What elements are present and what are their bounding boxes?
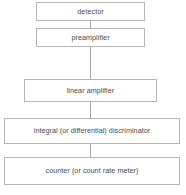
node-linear-amplifier: linear amplifier xyxy=(24,79,157,102)
node-detector: detector xyxy=(36,2,145,21)
connector-linear-amplifier-to-discriminator xyxy=(90,102,91,118)
block-diagram-canvas: detector preamplifier linear amplifier i… xyxy=(0,0,186,195)
node-counter-label: counter (or count rate meter) xyxy=(46,167,139,175)
node-preamplifier-label: preamplifier xyxy=(71,34,109,42)
node-discriminator-label: integral (or differential) discriminator xyxy=(34,127,151,135)
node-linear-amplifier-label: linear amplifier xyxy=(67,87,115,95)
node-counter: counter (or count rate meter) xyxy=(4,157,180,185)
node-preamplifier: preamplifier xyxy=(36,28,145,47)
connector-detector-to-preamplifier xyxy=(90,21,91,28)
node-detector-label: detector xyxy=(77,8,103,16)
connector-preamplifier-to-linear-amplifier xyxy=(90,47,91,79)
node-discriminator: integral (or differential) discriminator xyxy=(4,118,180,144)
connector-discriminator-to-counter xyxy=(90,144,91,157)
